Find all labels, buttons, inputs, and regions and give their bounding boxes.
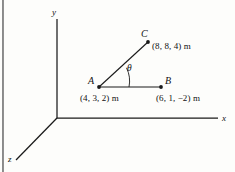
segment-ac [99,42,148,87]
coordinates-label-b: (6, 1, −2) m [156,94,200,103]
point-label-b: B [165,76,171,86]
point-marker-a [97,85,101,89]
coordinates-label-a: (4, 3, 2) m [80,94,119,103]
point-marker-b [159,85,163,89]
point-marker-c [146,40,150,44]
point-label-c: C [141,29,148,39]
point-label-a: A [88,76,94,86]
z-axis-line [16,118,57,160]
coordinates-label-c: (8, 8, 4) m [152,42,191,51]
x-axis-label: x [222,114,226,123]
y-axis-label: y [52,8,56,17]
angle-label-theta: θ [127,64,132,74]
diagram-svg [0,0,235,172]
figure-canvas: y x z A B C θ (4, 3, 2) m (6, 1, −2) m (… [0,0,235,172]
z-axis-label: z [8,155,12,164]
